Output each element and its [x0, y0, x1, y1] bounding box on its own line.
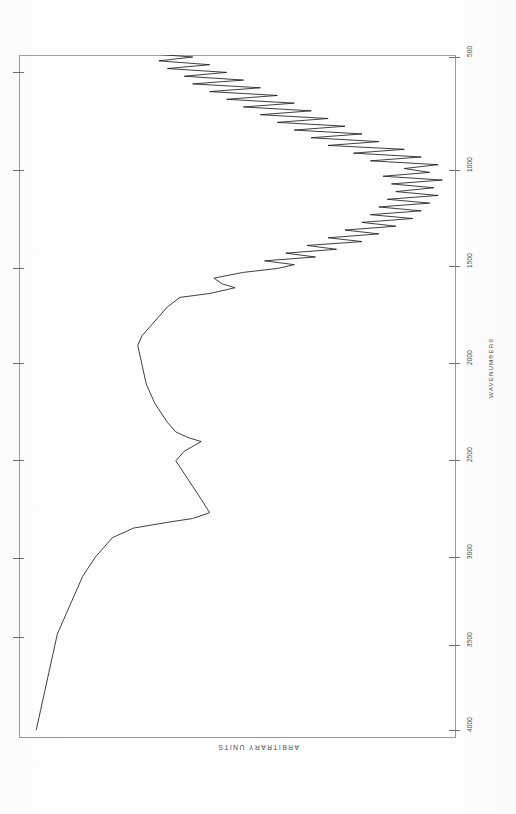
- x-tick-label-1000: 1000: [466, 157, 473, 172]
- x-tick-label-2500: 2500: [466, 447, 473, 462]
- scanned-page: 500 1000 1500 2000 2500 3000 3500 4000 W…: [0, 0, 516, 814]
- x-tick-label-3500: 3500: [466, 632, 473, 647]
- x-axis-title: WAVENUMBERS: [487, 337, 494, 398]
- x-tick-label-3000: 3000: [466, 544, 473, 559]
- x-tick-label-4000: 4000: [466, 717, 473, 732]
- x-tick-label-500: 500: [466, 46, 473, 57]
- x-tick-label-2000: 2000: [466, 350, 473, 365]
- spectrum-trace: [19, 55, 456, 738]
- x-tick-label-1500: 1500: [466, 253, 473, 268]
- y-axis-title: ARBITRARY UNITS: [0, 744, 516, 751]
